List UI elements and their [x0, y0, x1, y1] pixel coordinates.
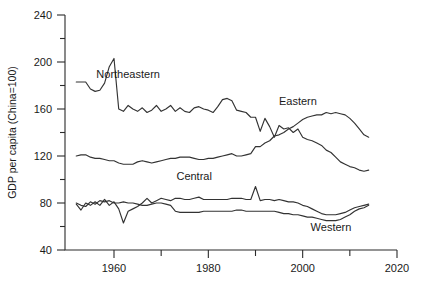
- y-tick-label: 40: [40, 244, 52, 256]
- series-line-central: [76, 187, 368, 223]
- x-tick-label: 2000: [290, 262, 314, 274]
- y-tick-label: 80: [40, 197, 52, 209]
- annotation-central: Central: [176, 170, 211, 182]
- axis-spines: [65, 15, 397, 250]
- tick-labels: 40801201602002401960198020002020: [34, 9, 410, 274]
- annotation-western: Western: [311, 221, 352, 233]
- y-tick-label: 120: [34, 150, 52, 162]
- chart-container: 40801201602002401960198020002020 Northea…: [0, 0, 428, 295]
- series-line-western: [76, 201, 368, 221]
- gdp-per-capita-line-chart: 40801201602002401960198020002020 Northea…: [0, 0, 428, 295]
- y-axis-title-text: GDP per capita (China=100): [6, 66, 18, 199]
- annotation-northeastern: Northeastern: [96, 68, 160, 80]
- y-tick-label: 200: [34, 56, 52, 68]
- series-line-eastern: [76, 113, 368, 165]
- y-tick-label: 240: [34, 9, 52, 21]
- axes: [65, 15, 397, 250]
- y-axis-title: GDP per capita (China=100): [6, 66, 18, 199]
- x-tick-label: 1960: [102, 262, 126, 274]
- data-series-lines: [76, 58, 368, 223]
- annotation-eastern: Eastern: [279, 95, 317, 107]
- x-tick-label: 2020: [385, 262, 409, 274]
- y-tick-label: 160: [34, 103, 52, 115]
- x-tick-label: 1980: [196, 262, 220, 274]
